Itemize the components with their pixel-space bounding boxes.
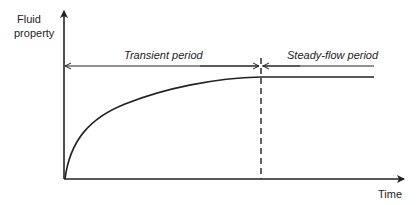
steady-flow-period-label: Steady-flow period — [287, 49, 379, 61]
x-axis-label: Time — [378, 188, 402, 200]
y-axis-label-line2: property — [14, 27, 55, 39]
y-axis-label-line1: Fluid — [17, 13, 41, 25]
transient-period-label: Transient period — [124, 49, 204, 61]
fluid-property-diagram: Fluid property Transient period Steady-f… — [0, 0, 419, 205]
fluid-property-curve — [65, 77, 374, 179]
